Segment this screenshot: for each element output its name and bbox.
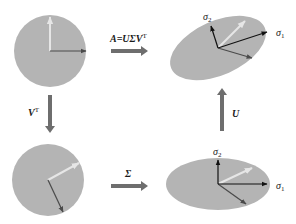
svg-text:VT: VT xyxy=(28,106,40,118)
arrowhead-icon xyxy=(141,181,148,191)
transform-Sigma: Σ xyxy=(111,168,148,191)
transform-label-A: A=UΣV xyxy=(109,33,144,44)
arrow-up-icon xyxy=(220,95,224,131)
sigma2-label: σ2 xyxy=(213,146,222,159)
arrowhead-icon xyxy=(45,126,55,133)
arrow-right-icon xyxy=(111,49,141,53)
sigma1-label: σ1 xyxy=(276,27,285,40)
panel-unit-circle xyxy=(14,15,86,87)
panel-transformed-ellipse: σ2 σ1 xyxy=(160,3,285,94)
transform-A: A=UΣVT xyxy=(109,32,148,56)
arrowhead-icon xyxy=(141,46,148,56)
transform-sup-A: T xyxy=(142,32,147,40)
transform-sup-Vt: T xyxy=(35,106,40,114)
arrow-right-icon xyxy=(111,184,141,188)
arrowhead-icon xyxy=(217,88,227,95)
arrow-down-icon xyxy=(48,95,52,126)
transform-U: U xyxy=(217,88,240,131)
transform-Vt: VT xyxy=(28,95,55,133)
panel-rotated-circle xyxy=(12,144,84,216)
panel-scaled-ellipse: σ2 σ1 xyxy=(166,146,285,210)
transform-label-Sigma: Σ xyxy=(124,168,132,179)
sigma1-label: σ1 xyxy=(276,180,285,193)
transform-label-U: U xyxy=(232,108,240,119)
svg-text:A=UΣVT: A=UΣVT xyxy=(109,32,147,44)
sigma2-label: σ2 xyxy=(203,11,212,24)
svd-diagram: A=UΣVT σ2 σ1 VT U Σ xyxy=(0,0,296,224)
